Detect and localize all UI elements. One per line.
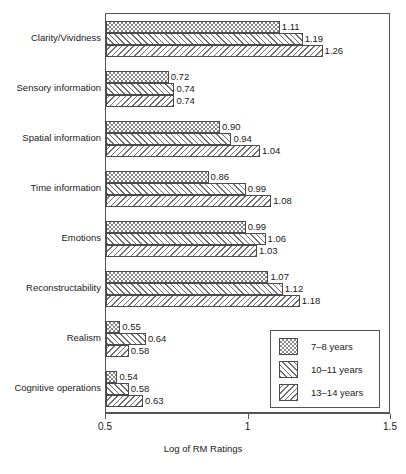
x-axis-title: Log of RM Ratings [0, 443, 406, 454]
bar-value-label: 0.74 [176, 94, 195, 107]
bar[interactable] [106, 383, 129, 395]
bar[interactable] [106, 95, 174, 107]
bar-value-label: 0.63 [145, 394, 164, 407]
x-tick-mark [248, 414, 249, 419]
bar-row: 0.72 [106, 71, 389, 83]
bar-row: 1.11 [106, 21, 389, 33]
bar-value-label: 0.64 [148, 332, 167, 345]
bar-row: 1.03 [106, 245, 389, 257]
bar-row: 0.74 [106, 95, 389, 107]
bar[interactable] [106, 295, 300, 307]
legend: 7–8 years10–11 years13–14 years [270, 330, 380, 408]
legend-swatch [279, 338, 298, 355]
bar-value-label: 0.94 [233, 132, 252, 145]
bar-row: 1.08 [106, 195, 389, 207]
x-tick-label: 1.5 [383, 421, 397, 433]
bar-value-label: 1.11 [282, 20, 300, 33]
bar-group: 0.720.740.74 [106, 71, 389, 107]
category-label: Clarity/Vividness [1, 33, 101, 43]
bar-group: 1.111.191.26 [106, 21, 389, 57]
bar[interactable] [106, 21, 280, 33]
bar-group: 0.991.061.03 [106, 221, 389, 257]
bar[interactable] [106, 195, 271, 207]
bar-row: 1.06 [106, 233, 389, 245]
bar[interactable] [106, 283, 283, 295]
bar-value-label: 1.04 [262, 144, 281, 157]
bar-row: 0.99 [106, 221, 389, 233]
bar[interactable] [106, 171, 209, 183]
bar-value-label: 0.99 [248, 220, 267, 233]
bar[interactable] [106, 83, 174, 95]
bar-group: 1.071.121.18 [106, 271, 389, 307]
legend-item[interactable]: 7–8 years [279, 338, 375, 356]
bar[interactable] [106, 271, 268, 283]
bar[interactable] [106, 395, 143, 407]
x-tick-mark [105, 414, 106, 419]
category-label: Sensory information [1, 83, 101, 93]
legend-swatch [279, 361, 298, 378]
category-label: Cognitive operations [1, 383, 101, 393]
x-tick-label: 1 [245, 421, 251, 433]
bar[interactable] [106, 133, 231, 145]
bar[interactable] [106, 233, 266, 245]
bar-row: 0.99 [106, 183, 389, 195]
legend-label: 13–14 years [311, 386, 363, 399]
bar-row: 1.07 [106, 271, 389, 283]
bar-row: 1.04 [106, 145, 389, 157]
bar-row: 1.26 [106, 45, 389, 57]
category-label: Spatial information [1, 133, 101, 143]
bar-row: 1.19 [106, 33, 389, 45]
category-label: Emotions [1, 233, 101, 243]
bar-value-label: 1.08 [273, 194, 292, 207]
category-label: Realism [1, 333, 101, 343]
bar[interactable] [106, 33, 303, 45]
bar-row: 0.94 [106, 133, 389, 145]
bar[interactable] [106, 221, 246, 233]
legend-item[interactable]: 10–11 years [279, 361, 375, 379]
bar[interactable] [106, 121, 220, 133]
x-tick-mark [390, 414, 391, 419]
bar-value-label: 1.26 [325, 44, 344, 57]
legend-item[interactable]: 13–14 years [279, 384, 375, 402]
bar-value-label: 1.18 [302, 294, 321, 307]
bar[interactable] [106, 145, 260, 157]
bar-row: 0.74 [106, 83, 389, 95]
category-label: Reconstructability [1, 283, 101, 293]
bar-value-label: 1.19 [305, 32, 324, 45]
x-tick-label: 0.5 [98, 421, 112, 433]
legend-label: 10–11 years [311, 363, 363, 376]
bar-value-label: 1.03 [259, 244, 278, 257]
bar[interactable] [106, 321, 120, 333]
bar[interactable] [106, 45, 323, 57]
bar-chart: Clarity/VividnessSensory informationSpat… [0, 0, 406, 474]
bar-row: 1.12 [106, 283, 389, 295]
bar-value-label: 0.55 [122, 320, 141, 333]
bar[interactable] [106, 245, 257, 257]
bar-group: 0.860.991.08 [106, 171, 389, 207]
bar-value-label: 1.12 [285, 282, 304, 295]
legend-label: 7–8 years [311, 340, 353, 353]
bar-row: 1.18 [106, 295, 389, 307]
category-axis-labels: Clarity/VividnessSensory informationSpat… [0, 13, 101, 413]
bar[interactable] [106, 345, 129, 357]
bar[interactable] [106, 371, 117, 383]
bar-value-label: 0.86 [211, 170, 230, 183]
bar[interactable] [106, 183, 246, 195]
category-label: Time information [1, 183, 101, 193]
legend-swatch [279, 384, 298, 401]
bar[interactable] [106, 71, 169, 83]
bar-value-label: 0.99 [248, 182, 267, 195]
bar-group: 0.900.941.04 [106, 121, 389, 157]
bar-value-label: 0.58 [131, 344, 150, 357]
